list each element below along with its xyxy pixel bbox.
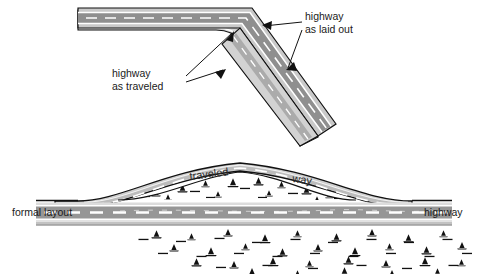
label-highway-as-laid-out-line2: as laid out [305, 23, 353, 35]
label-formal-layout: formal layout [12, 206, 72, 218]
label-highway: highway [424, 206, 463, 218]
highway-diagram: highway as laid out highway as traveled [0, 0, 480, 274]
label-highway-as-laid-out-line1: highway [305, 10, 344, 22]
label-highway-as-traveled-line1: highway [112, 67, 151, 79]
label-highway-as-traveled-line2: as traveled [112, 80, 164, 92]
label-way: way [291, 172, 313, 186]
formal-layout-highway [36, 203, 452, 226]
